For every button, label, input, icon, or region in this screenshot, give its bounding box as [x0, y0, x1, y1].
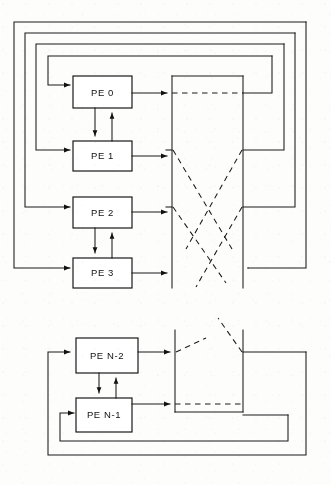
pen2-pen1-coupling: [99, 373, 116, 398]
pe3-label: PE 3: [91, 267, 114, 278]
pe1-to-network-link: [132, 150, 172, 156]
pe2-label: PE 2: [91, 207, 114, 218]
top-feedback-loop-1: [14, 22, 306, 268]
architecture-diagram: PE 0 PE 1 PE 2 PE 3: [0, 0, 331, 485]
pe-node-pe2[interactable]: PE 2: [73, 197, 132, 228]
top-network-switched-paths: [172, 93, 243, 287]
diagram-canvas: PE 0 PE 1 PE 2 PE 3: [0, 0, 331, 485]
top-feedback-loop-2: [25, 33, 295, 207]
pe-node-pen1[interactable]: PE N-1: [76, 398, 132, 432]
pe0-label: PE 0: [91, 87, 114, 98]
bottom-network-switched-paths: [175, 318, 243, 404]
pen2-label: PE N-2: [90, 350, 124, 361]
pe2-to-network-link: [132, 207, 172, 212]
pe-node-pen2[interactable]: PE N-2: [76, 338, 138, 373]
pe-node-pe1[interactable]: PE 1: [73, 141, 132, 171]
pe0-pe1-coupling: [95, 108, 112, 141]
pe1-label: PE 1: [91, 150, 114, 161]
pen1-label: PE N-1: [87, 409, 121, 420]
bottom-interconnection-network: [175, 330, 243, 412]
pe-node-pe0[interactable]: PE 0: [73, 76, 132, 108]
pe2-pe3-coupling: [95, 228, 112, 258]
pe-node-pe3[interactable]: PE 3: [73, 258, 132, 288]
